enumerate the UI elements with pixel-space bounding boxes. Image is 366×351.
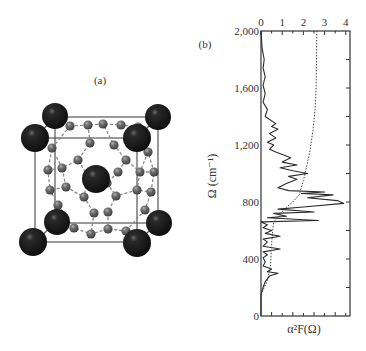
x-tick-2: 2	[301, 16, 307, 28]
y-tick-2000: 2,000	[234, 25, 259, 37]
y-axis-right	[346, 60, 350, 288]
integrated-coupling-line	[261, 31, 317, 295]
figure: (a)	[0, 0, 366, 351]
panel-a: (a)	[19, 74, 172, 257]
y-tick-400: 400	[243, 253, 260, 265]
x-tick-3: 3	[322, 16, 328, 28]
panel-a-label: (a)	[94, 74, 107, 87]
spectral-function-line	[261, 31, 344, 316]
panel-b: (b) 0 1 2 3 4	[199, 16, 350, 336]
x-tick-0: 0	[258, 16, 264, 28]
y-tick-800: 800	[243, 196, 260, 208]
y-tick-1600: 1,600	[234, 82, 259, 94]
x-tick-1: 1	[279, 16, 285, 28]
y-tick-0: 0	[254, 310, 260, 322]
x-axis-title: α²F(Ω)	[287, 322, 320, 336]
y-axis-title: Ω (cm⁻¹)	[205, 154, 219, 199]
y-tick-labels: 0 400 800 1,200 1,600 2,000	[234, 25, 259, 322]
x-tick-4: 4	[343, 16, 349, 28]
panel-b-label: (b)	[199, 38, 212, 51]
x-tick-labels: 0 1 2 3 4	[258, 16, 349, 28]
y-tick-1200: 1,200	[234, 139, 259, 151]
